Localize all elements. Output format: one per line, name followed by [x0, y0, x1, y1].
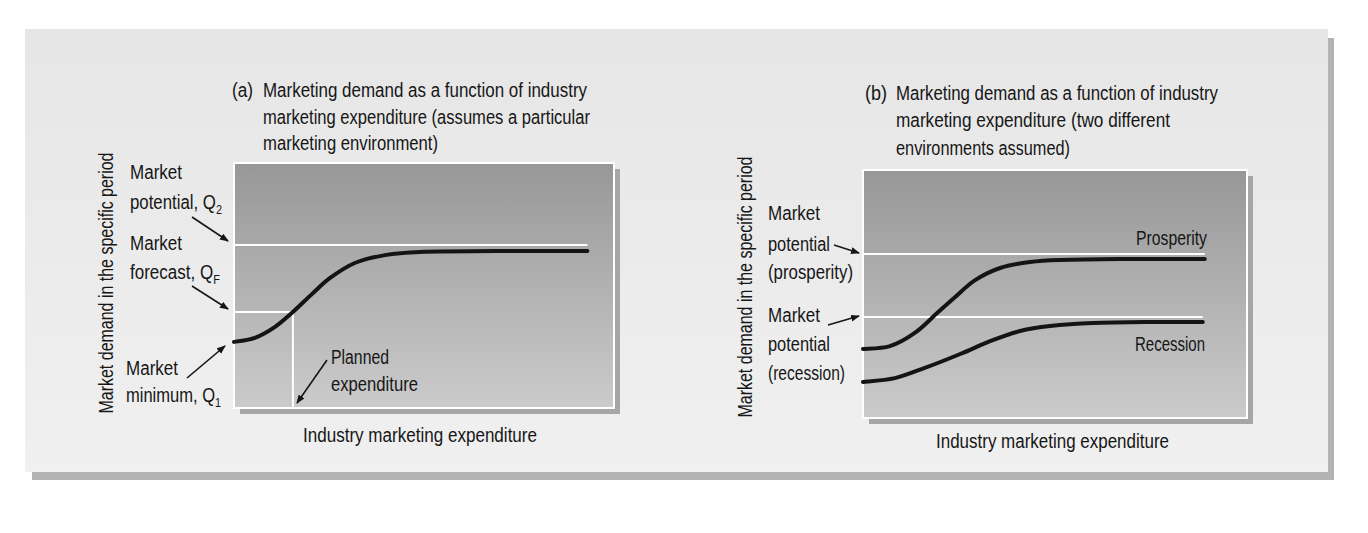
market-minimum-label-line-1: Market — [126, 357, 178, 379]
plot-a-area — [234, 163, 614, 408]
potential-prosperity-label-line-3: (prosperity) — [768, 261, 853, 283]
panel-a-title-line-2: marketing expenditure (assumes a particu… — [263, 106, 590, 128]
panel-a-x-axis-label: Industry marketing expenditure — [303, 424, 537, 446]
prosperity-series-label: Prosperity — [1136, 227, 1207, 249]
panel-b-label: (b) — [865, 82, 887, 104]
potential-recession-label-line-2: potential — [768, 333, 830, 355]
planned-expenditure-label-line-2: expenditure — [331, 373, 418, 395]
figure: (a) Marketing demand as a function of in… — [0, 0, 1368, 533]
market-forecast-label-line-1: Market — [130, 232, 182, 254]
potential-prosperity-label-line-1: Market — [768, 202, 820, 224]
potential-recession-label-line-1: Market — [768, 304, 820, 326]
planned-expenditure-label-line-1: Planned — [331, 346, 389, 368]
market-potential-label-line-1: Market — [130, 161, 182, 183]
potential-prosperity-label-line-2: potential — [768, 233, 830, 255]
panel-b-title-line-2: marketing expenditure (two different — [896, 109, 1170, 131]
panel-b-title-line-3: environments assumed) — [896, 137, 1070, 159]
plot-b-area — [863, 170, 1247, 418]
panel-a-label: (a) — [232, 79, 253, 101]
panel-a-title-line-3: marketing environment) — [263, 132, 438, 154]
recession-series-label: Recession — [1135, 333, 1205, 355]
panel-b-y-axis-label: Market demand in the specific period — [734, 157, 756, 418]
panel-a-y-axis-label: Market demand in the specific period — [95, 153, 117, 414]
potential-recession-label-line-3: (recession) — [768, 362, 845, 384]
panel-a-title-line-1: Marketing demand as a function of indust… — [263, 79, 587, 101]
panel-b-x-axis-label: Industry marketing expenditure — [936, 430, 1169, 452]
panel-b-title-line-1: Marketing demand as a function of indust… — [896, 82, 1218, 104]
